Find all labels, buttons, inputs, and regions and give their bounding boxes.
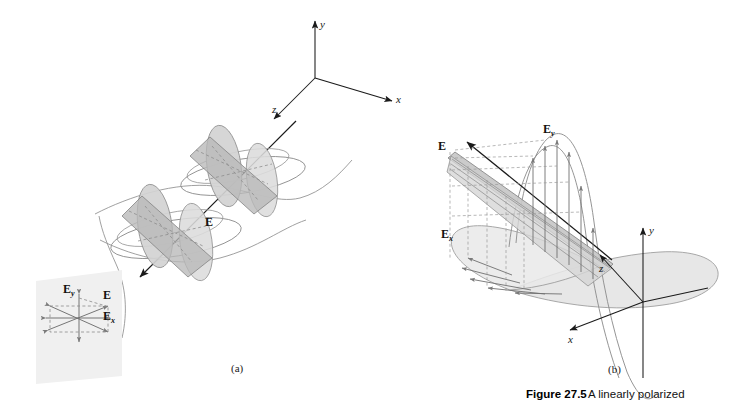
inset-ex-subscript: x [110,316,115,325]
panel-b-e-label: E [438,139,446,153]
figure-caption: Figure 27.5 A linearly polarized [526,388,685,400]
panel-b-x-label: x [567,333,573,345]
panel-a-field-label: E [205,215,213,229]
panel-a-inset: E y E E x [36,270,122,384]
panel-b-z-label: z [598,262,604,274]
panel-a-z-label: z [271,103,277,115]
panel-b-y-label: y [648,224,654,236]
panel-b-ex-label: E [441,227,449,241]
figure-caption-text: A linearly polarized [588,388,685,400]
panel-a-caption: (a) [231,362,244,375]
panel-b-caption: (b) [608,363,621,376]
inset-ey-subscript: y [70,289,75,298]
figure-canvas: y x z [0,0,729,407]
inset-ex-label: E [103,309,111,323]
panel-b-ex-subscript: x [448,234,453,243]
inset-e-label: E [103,288,111,302]
inset-ey-label: E [63,282,71,296]
panel-a-x-label: x [395,93,401,105]
figure-caption-label: Figure 27.5 [526,388,587,400]
panel-b-ey-subscript: y [550,129,555,138]
figure-27-5: y x z [0,0,729,407]
panel-b-ey-label: E [543,122,551,136]
panel-a-y-label: y [319,18,325,30]
